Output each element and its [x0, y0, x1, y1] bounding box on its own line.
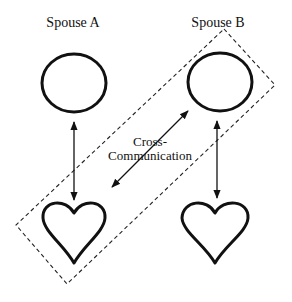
- spouse-a-label: Spouse A: [46, 15, 100, 30]
- spouse-a-heart: [43, 203, 105, 263]
- diagram-svg: Spouse A Spouse B Cross- Communication: [0, 0, 292, 302]
- cross-label-line1: Cross-: [133, 134, 167, 149]
- cross-label-line2: Communication: [108, 148, 192, 163]
- spouse-b-circle: [188, 53, 252, 111]
- diagram-canvas: Spouse A Spouse B Cross- Communication: [0, 0, 292, 302]
- spouse-a-circle: [42, 54, 106, 112]
- spouse-b-label: Spouse B: [191, 15, 244, 30]
- spouse-b-heart: [182, 203, 248, 263]
